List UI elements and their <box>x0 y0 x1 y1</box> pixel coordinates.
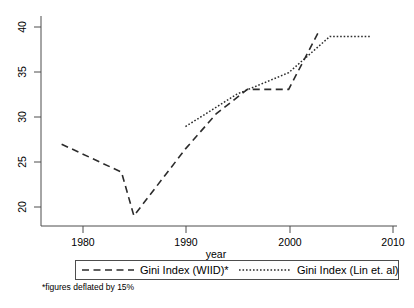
x-axis-title: year <box>196 248 236 260</box>
legend-entry-wiid: Gini Index (WIID)* <box>82 261 229 279</box>
y-tick-label-30: 30 <box>16 104 28 130</box>
gini-index-line-chart: 40 35 30 25 20 1980 1990 2000 2010 year … <box>0 0 414 308</box>
y-tick-label-40: 40 <box>16 14 28 40</box>
legend-key-dashed-icon <box>82 264 134 276</box>
legend-key-dotted-icon <box>239 264 291 276</box>
x-tick-label-1990: 1990 <box>166 236 206 248</box>
y-tick-label-25: 25 <box>16 149 28 175</box>
legend-label-lin: Gini Index (Lin et. al) <box>297 264 399 276</box>
series-line-gini-index-lin-et-al <box>185 36 371 126</box>
y-tick-label-20: 20 <box>16 194 28 220</box>
y-axis-ticks <box>34 27 41 207</box>
chart-footnote: *figures deflated by 15% <box>42 282 134 292</box>
legend-label-wiid: Gini Index (WIID)* <box>140 264 229 276</box>
chart-legend: Gini Index (WIID)* Gini Index (Lin et. a… <box>75 260 399 280</box>
x-tick-label-1980: 1980 <box>63 236 103 248</box>
series-line-gini-index-wiid <box>62 30 320 216</box>
x-tick-label-2010: 2010 <box>373 236 413 248</box>
x-tick-label-2000: 2000 <box>270 236 310 248</box>
legend-entry-lin: Gini Index (Lin et. al) <box>239 261 399 279</box>
y-tick-label-35: 35 <box>16 59 28 85</box>
x-axis-ticks <box>83 226 393 233</box>
